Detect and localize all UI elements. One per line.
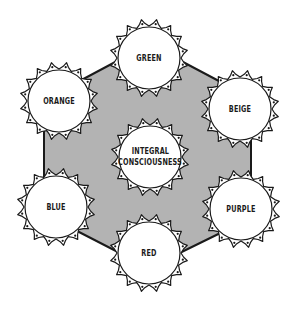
- node-label-beige: BEIGE: [226, 104, 254, 115]
- node-label-orange: ORANGE: [39, 96, 79, 107]
- node-label-green: GREEN: [133, 53, 165, 64]
- node-label-purple: PURPLE: [223, 204, 260, 215]
- node-label-blue: BLUE: [44, 202, 68, 213]
- center-node-label: INTEGRAL CONSCIOUSNESS: [110, 146, 190, 168]
- node-label-red: RED: [139, 248, 158, 259]
